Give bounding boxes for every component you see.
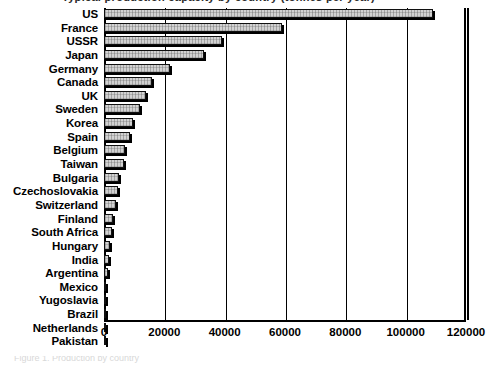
bar-row [104,103,466,117]
category-label: Germany [0,63,101,77]
bar-row [104,144,466,158]
bar-row [104,213,466,227]
bar-row [104,281,466,295]
category-label: US [0,8,101,22]
category-label: Czechoslovakia [0,185,101,199]
bar [104,36,222,45]
bar-row [104,117,466,131]
bar [104,104,140,113]
value-tick-label: 80000 [329,326,361,338]
category-label: South Africa [0,226,101,240]
category-label: Spain [0,131,101,145]
bar-row [104,226,466,240]
bar-row [104,158,466,172]
bar-row [104,294,466,308]
bar [104,282,106,291]
bar [104,159,124,168]
category-label: Argentina [0,267,101,281]
bar [104,118,133,127]
value-axis-labels: 020000400006000080000100000120000 [0,326,491,346]
bar-row [104,8,466,22]
bar-row [104,90,466,104]
bar-row [104,185,466,199]
bar [104,295,106,304]
bar [104,309,106,318]
bar-row [104,254,466,268]
bar [104,241,110,250]
value-tick-label: 40000 [209,326,241,338]
category-label: Belgium [0,144,101,158]
scan-artifact-label: Figure 1. Production by country [14,356,139,363]
bar [104,255,109,264]
bar [104,23,282,32]
category-label: Sweden [0,103,101,117]
category-axis-labels: USFranceUSSRJapanGermanyCanadaUKSwedenKo… [0,8,101,322]
bar-row [104,131,466,145]
scan-artifact-text: Figure 1. Production by country [0,356,491,368]
value-tick-label: 0 [101,326,107,338]
bar-chart: USFranceUSSRJapanGermanyCanadaUKSwedenKo… [0,0,491,368]
bar [104,145,125,154]
bar-series [104,8,466,322]
category-label: UK [0,90,101,104]
bar [104,227,112,236]
bar [104,50,204,59]
category-label: Japan [0,49,101,63]
category-label: Yugoslavia [0,294,101,308]
bar-row [104,76,466,90]
bar-row [104,35,466,49]
bar-row [104,308,466,322]
bar-row [104,240,466,254]
value-tick-label: 20000 [148,326,180,338]
category-label: India [0,254,101,268]
category-label: Finland [0,213,101,227]
bar-row [104,172,466,186]
bar [104,200,116,209]
bar-row [104,22,466,36]
category-label: Brazil [0,308,101,322]
category-label: Korea [0,117,101,131]
bar-row [104,63,466,77]
bar-row [104,49,466,63]
bar-row [104,267,466,281]
category-label: Mexico [0,281,101,295]
value-tick-label: 100000 [386,326,424,338]
bar [104,64,170,73]
bar [104,214,113,223]
category-label: Canada [0,76,101,90]
value-tick-label: 120000 [447,326,485,338]
bar [104,173,119,182]
category-label: Taiwan [0,158,101,172]
gridline [467,8,469,320]
value-tick-label: 60000 [269,326,301,338]
category-label: Switzerland [0,199,101,213]
bar [104,77,152,86]
category-label: Bulgaria [0,172,101,186]
category-label: France [0,22,101,36]
category-label: USSR [0,35,101,49]
bar [104,186,118,195]
bar-row [104,199,466,213]
bar [104,268,108,277]
bar [104,91,146,100]
bar [104,132,130,141]
category-label: Hungary [0,240,101,254]
bar [104,9,433,18]
